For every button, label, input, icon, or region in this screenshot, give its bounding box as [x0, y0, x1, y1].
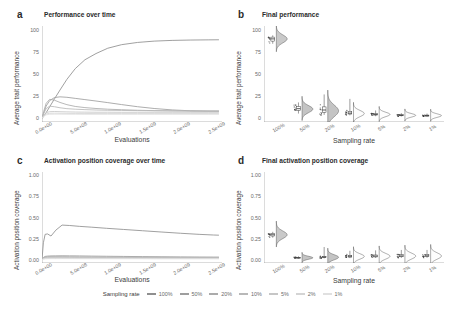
x-tick-label: 2%: [402, 123, 411, 132]
panel-a-plot-area: [42, 26, 222, 122]
x-tick-label: 20%: [324, 263, 336, 273]
x-tick-label: 0.0e+00: [34, 261, 53, 275]
x-tick-label: 1%: [428, 264, 437, 273]
legend-item-label: 5%: [281, 291, 289, 297]
x-tick-label: 10%: [350, 122, 362, 132]
panel-c-ylabel: Activation position coverage: [13, 190, 20, 270]
x-tick-label: 100%: [271, 122, 285, 134]
legend-line-swatch: [269, 293, 278, 294]
panel-d-xlabel: Sampling rate: [264, 277, 444, 284]
y-tick-label: 0: [20, 115, 39, 121]
legend-line-swatch: [209, 293, 218, 294]
x-tick-label: 5.0e+08: [69, 261, 88, 275]
x-tick-label: 2.0e+09: [172, 120, 191, 134]
legend-item-label: 20%: [221, 291, 232, 297]
y-tick-label: 75: [20, 49, 39, 55]
legend-line-swatch: [147, 293, 156, 294]
legend-line-swatch: [239, 293, 248, 294]
panel-c-tag: c: [17, 156, 23, 166]
x-tick-label: 5%: [377, 264, 386, 273]
x-tick-label: 1.0e+09: [103, 261, 122, 275]
legend-item[interactable]: 50%: [180, 291, 203, 297]
y-tick-label: 0: [242, 115, 261, 121]
y-tick-label: 75: [242, 49, 261, 55]
x-tick-label: 1.0e+09: [103, 120, 122, 134]
panel-b-title: Final performance: [262, 11, 319, 19]
legend-title: Sampling rate: [103, 291, 140, 297]
x-tick-label: 2%: [402, 264, 411, 273]
y-tick-label: 50: [242, 71, 261, 77]
x-tick-label: 50%: [298, 263, 310, 273]
x-tick-label: 5%: [377, 123, 386, 132]
legend-line-swatch: [323, 293, 332, 294]
legend-items: 100%50%20%10%5%2%1%: [147, 291, 350, 297]
panel-a: a Performance over time Average trait pe…: [0, 0, 226, 150]
x-tick-label: 2.0e+09: [172, 261, 191, 275]
x-tick-label: 1.5e+09: [138, 261, 157, 275]
legend-item-label: 10%: [251, 291, 262, 297]
figure-root: a Performance over time Average trait pe…: [0, 0, 452, 313]
panel-b: b Final performance Average trait perfor…: [226, 0, 452, 150]
legend-item-label: 100%: [159, 291, 173, 297]
legend-item[interactable]: 20%: [209, 291, 232, 297]
panel-d-tag: d: [238, 156, 244, 166]
y-tick-label: 0.50: [20, 215, 39, 221]
y-tick-label: 25: [242, 93, 261, 99]
y-tick-label: 0.50: [242, 215, 261, 221]
x-tick-label: 2.5e+09: [207, 261, 226, 275]
y-tick-label: 100: [242, 27, 261, 33]
y-tick-label: 1.00: [20, 172, 39, 178]
x-tick-label: 20%: [324, 122, 336, 132]
panel-d-title: Final activation position coverage: [262, 157, 368, 165]
x-tick-label: 1%: [428, 123, 437, 132]
panel-a-ylabel: Average trait performance: [13, 51, 20, 125]
panel-b-xlabel: Sampling rate: [264, 137, 444, 144]
y-tick-label: 0.75: [242, 193, 261, 199]
panel-d-plot-area: [264, 172, 444, 263]
legend-item[interactable]: 1%: [323, 291, 343, 297]
panel-c-plot-area: [42, 172, 222, 263]
x-tick-label: 0.0e+00: [34, 120, 53, 134]
panel-b-tag: b: [238, 10, 244, 20]
legend-item-label: 1%: [335, 291, 343, 297]
y-tick-label: 100: [20, 27, 39, 33]
y-tick-label: 25: [20, 93, 39, 99]
legend-item[interactable]: 100%: [147, 291, 173, 297]
y-tick-label: 0.00: [242, 257, 261, 263]
panel-c-xlabel: Evaluations: [42, 276, 222, 283]
y-tick-label: 1.00: [242, 172, 261, 178]
panel-d: d Final activation position coverage Act…: [226, 150, 452, 285]
panel-a-tag: a: [17, 10, 23, 20]
panel-b-plot-area: [264, 26, 444, 122]
y-tick-label: 50: [20, 71, 39, 77]
x-tick-label: 10%: [350, 263, 362, 273]
legend-item[interactable]: 5%: [269, 291, 289, 297]
y-tick-label: 0.00: [20, 257, 39, 263]
legend-item-label: 2%: [308, 291, 316, 297]
legend-line-swatch: [296, 293, 305, 294]
y-tick-label: 0.25: [242, 236, 261, 242]
x-tick-label: 100%: [271, 263, 285, 275]
panel-a-xlabel: Evaluations: [42, 136, 222, 143]
x-tick-label: 2.5e+09: [207, 120, 226, 134]
legend: Sampling rate 100%50%20%10%5%2%1%: [0, 285, 452, 303]
legend-item-label: 50%: [192, 291, 203, 297]
y-tick-label: 0.25: [20, 236, 39, 242]
panel-a-title: Performance over time: [44, 11, 115, 19]
x-tick-label: 50%: [298, 122, 310, 132]
panel-b-ylabel: Average trait performance: [235, 51, 242, 125]
legend-item[interactable]: 2%: [296, 291, 316, 297]
panel-c: c Activation position coverage over time…: [0, 150, 226, 285]
legend-line-swatch: [180, 293, 189, 294]
y-tick-label: 0.75: [20, 193, 39, 199]
x-tick-label: 5.0e+08: [69, 120, 88, 134]
x-tick-label: 1.5e+09: [138, 120, 157, 134]
legend-item[interactable]: 10%: [239, 291, 262, 297]
panel-c-title: Activation position coverage over time: [44, 157, 165, 165]
panel-d-ylabel: Activation position coverage: [235, 190, 242, 270]
